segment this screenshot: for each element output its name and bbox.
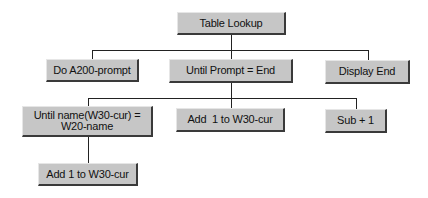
node-until-prompt-end[interactable]: Until Prompt = End xyxy=(169,59,293,83)
node-until-name-equals[interactable]: Until name(W30-cur) = W20-name xyxy=(22,106,153,137)
node-table-lookup[interactable]: Table Lookup xyxy=(177,12,286,35)
node-label: Until Prompt = End xyxy=(186,65,275,76)
node-display-end[interactable]: Display End xyxy=(325,60,410,84)
node-label: Table Lookup xyxy=(199,18,262,29)
node-label: Add 1 to W30-cur xyxy=(187,114,272,125)
diagram-canvas: Table Lookup Do A200-prompt Until Prompt… xyxy=(0,0,428,198)
node-label: Sub + 1 xyxy=(337,115,374,126)
node-do-a200-prompt[interactable]: Do A200-prompt xyxy=(46,59,139,82)
node-label: Display End xyxy=(339,66,396,77)
node-sub-plus-1[interactable]: Sub + 1 xyxy=(325,109,387,133)
node-add-1-to-w30-cur-inner[interactable]: Add 1 to W30-cur xyxy=(38,163,138,186)
node-label: Add 1 to W30-cur xyxy=(46,169,128,180)
node-label: Do A200-prompt xyxy=(53,65,130,76)
node-add-1-to-w30-cur[interactable]: Add 1 to W30-cur xyxy=(176,108,285,132)
node-label: Until name(W30-cur) = W20-name xyxy=(34,110,141,132)
